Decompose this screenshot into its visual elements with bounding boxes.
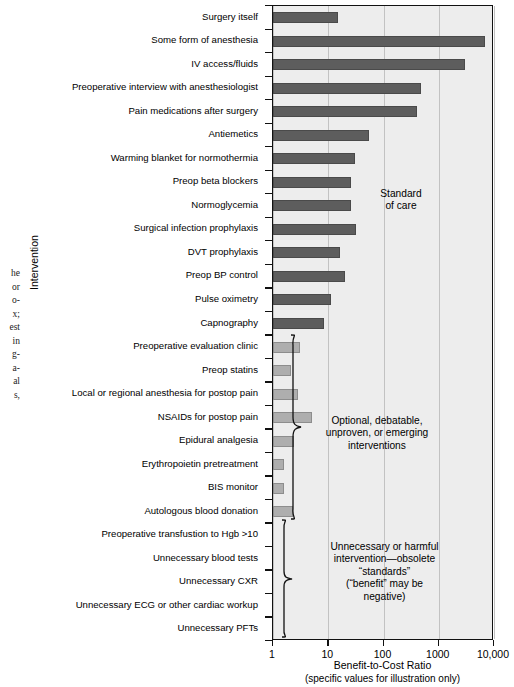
annotation-line: unproven, or emerging bbox=[297, 427, 457, 439]
bar bbox=[273, 459, 284, 470]
y-axis-label: Preop statins bbox=[202, 363, 258, 377]
y-axis-label: Capnography bbox=[200, 316, 258, 330]
y-axis-label: Local or regional anesthesia for postop … bbox=[72, 386, 258, 400]
bar bbox=[273, 318, 324, 329]
y-axis-tick bbox=[265, 99, 272, 100]
annotation-line: interventions bbox=[297, 440, 457, 452]
y-axis-label: Epidural analgesia bbox=[179, 433, 258, 447]
y-axis-tick bbox=[265, 546, 272, 547]
bar bbox=[273, 200, 351, 211]
y-axis-label: Autologous blood donation bbox=[144, 504, 258, 518]
annotation-optional-group: Optional, debatable,unproven, or emergin… bbox=[297, 415, 457, 452]
y-axis-tick bbox=[265, 428, 272, 429]
x-axis-tick bbox=[383, 640, 384, 646]
bar bbox=[273, 153, 355, 164]
y-axis-label: Preop BP control bbox=[186, 268, 258, 282]
bar bbox=[273, 271, 345, 282]
y-axis-tick bbox=[265, 311, 272, 312]
brace-optional-group bbox=[288, 333, 304, 521]
y-axis-label: BIS monitor bbox=[208, 480, 258, 494]
y-axis-category-labels: Surgery itselfSome form of anesthesiaIV … bbox=[0, 5, 266, 640]
annotation-line: negative) bbox=[297, 591, 472, 603]
annotation-line: “standards” bbox=[297, 566, 472, 578]
annotation-line: Standard bbox=[361, 188, 441, 200]
y-axis-tick bbox=[265, 569, 272, 570]
y-axis-tick bbox=[265, 616, 272, 617]
y-axis-label: Pain medications after surgery bbox=[128, 104, 258, 118]
bar bbox=[273, 36, 485, 47]
bar bbox=[273, 83, 421, 94]
y-axis-tick bbox=[265, 334, 272, 335]
x-axis-tick bbox=[493, 640, 494, 646]
y-axis-label: Surgery itself bbox=[202, 10, 258, 24]
y-axis-tick bbox=[265, 170, 272, 171]
bar bbox=[273, 483, 284, 494]
bar bbox=[273, 224, 356, 235]
y-axis-label: Unnecessary CXR bbox=[179, 574, 258, 588]
y-axis-tick bbox=[265, 193, 272, 194]
bar bbox=[273, 130, 369, 141]
annotation-line: Unnecessary or harmful bbox=[297, 541, 472, 553]
annotation-harmful-group: Unnecessary or harmfulintervention—obsol… bbox=[297, 541, 472, 603]
y-axis-tick bbox=[265, 475, 272, 476]
annotation-line: Optional, debatable, bbox=[297, 415, 457, 427]
y-axis-label: Preoperative evaluation clinic bbox=[133, 339, 258, 353]
bar bbox=[273, 12, 338, 23]
y-axis-tick bbox=[265, 76, 272, 77]
x-axis-tick bbox=[272, 640, 273, 646]
bar bbox=[273, 294, 331, 305]
y-axis-tick bbox=[265, 123, 272, 124]
annotation-standard-of-care: Standardof care bbox=[361, 188, 441, 213]
y-axis-label: Unnecessary blood tests bbox=[153, 551, 258, 565]
x-axis-tick bbox=[327, 640, 328, 646]
bar bbox=[273, 59, 465, 70]
y-axis-label: Unnecessary PFTs bbox=[177, 621, 258, 635]
y-axis-label: NSAIDs for postop pain bbox=[158, 410, 258, 424]
x-axis-subtitle: (specific values for illustration only) bbox=[262, 673, 503, 684]
x-axis-title: Benefit-to-Cost Ratio bbox=[272, 659, 493, 671]
y-axis-tick bbox=[265, 52, 272, 53]
annotation-line: of care bbox=[361, 200, 441, 212]
y-axis-tick bbox=[265, 358, 272, 359]
y-axis-label: Preoperative transfustion to Hgb >10 bbox=[101, 527, 258, 541]
y-axis-label: Warming blanket for normothermia bbox=[111, 151, 258, 165]
y-axis-label: Unnecessary ECG or other cardiac workup bbox=[76, 598, 258, 612]
y-axis-label: DVT prophylaxis bbox=[188, 245, 258, 259]
y-axis-label: Pulse oximetry bbox=[195, 292, 258, 306]
y-axis-label: Some form of anesthesia bbox=[151, 33, 258, 47]
y-axis-tick bbox=[265, 5, 272, 6]
y-axis-tick bbox=[265, 146, 272, 147]
y-axis-label: Normoglycemia bbox=[191, 198, 258, 212]
annotation-line: (“benefit” may be bbox=[297, 578, 472, 590]
y-axis-tick bbox=[265, 217, 272, 218]
y-axis-label: Surgical infection prophylaxis bbox=[134, 221, 258, 235]
x-axis-tick bbox=[438, 640, 439, 646]
y-axis-tick bbox=[265, 381, 272, 382]
y-axis-tick bbox=[265, 640, 272, 641]
y-axis-tick bbox=[265, 240, 272, 241]
y-axis-tick bbox=[265, 29, 272, 30]
y-axis-label: Antiemetics bbox=[208, 127, 258, 141]
y-axis-label: Preop beta blockers bbox=[173, 174, 258, 188]
y-axis-tick bbox=[265, 264, 272, 265]
y-axis-label: Preoperative interview with anesthesiolo… bbox=[72, 80, 258, 94]
gridline bbox=[494, 6, 495, 639]
plot-area: Standardof care Optional, debatable,unpr… bbox=[272, 5, 493, 640]
bar bbox=[273, 177, 351, 188]
y-axis-label: IV access/fluids bbox=[191, 57, 258, 71]
bar bbox=[273, 247, 340, 258]
brace-harmful-group bbox=[279, 518, 295, 638]
bar bbox=[273, 106, 417, 117]
y-axis-tick bbox=[265, 522, 272, 523]
annotation-line: intervention—obsolete bbox=[297, 553, 472, 565]
y-axis-tick bbox=[265, 593, 272, 594]
y-axis-label: Erythropoietin pretreatment bbox=[142, 457, 258, 471]
y-axis-tick bbox=[265, 499, 272, 500]
y-axis-tick bbox=[265, 452, 272, 453]
y-axis-tick bbox=[265, 405, 272, 406]
y-axis-tick bbox=[265, 287, 272, 288]
